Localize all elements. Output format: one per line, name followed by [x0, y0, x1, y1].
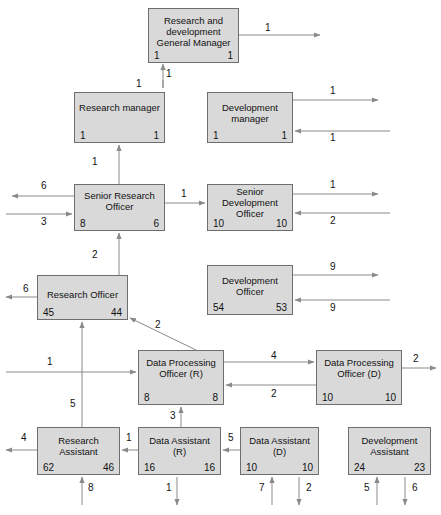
edge-label-sro-to-sdo: 1: [181, 188, 187, 199]
edge-label-dm-in: 1: [330, 132, 336, 143]
edge-label-sro-up: 1: [92, 156, 98, 167]
node-development-officer[interactable]: Development Officer 54 53: [207, 265, 293, 315]
edge-label-dpor-diag: 2: [155, 319, 161, 330]
node-right-count: 10: [385, 392, 396, 403]
node-left-count: 24: [354, 462, 365, 473]
edge-label-dpod-out: 2: [413, 353, 419, 364]
edge-label-do-in-right: 9: [330, 302, 336, 313]
edge-label-da-in-bottom: 5: [364, 482, 370, 493]
edge-label-dpor-up: 3: [170, 410, 176, 421]
edge-label-dm-out: 1: [330, 85, 336, 96]
edge-label-rm-up: 1: [136, 78, 142, 89]
node-left-count: 10: [246, 462, 257, 473]
edge-label-dpor-to-dpod: 4: [271, 350, 277, 361]
node-title: Data Assistant (D): [244, 435, 315, 457]
node-left-count: 10: [213, 218, 224, 229]
node-right-count: 8: [212, 392, 218, 403]
org-flow-diagram: Research and development General Manager…: [0, 0, 441, 515]
edge-label-gm-in-bottom: 1: [166, 68, 172, 79]
node-research-assistant[interactable]: Research Assistant 62 46: [37, 427, 120, 475]
node-left-count: 16: [144, 462, 155, 473]
edge-label-ra-out-left: 4: [21, 432, 27, 443]
edge-label-dar-out-bottom: 1: [166, 482, 172, 493]
node-title: Research Officer: [41, 289, 124, 300]
edge-label-dpor-in-left: 1: [47, 356, 53, 367]
node-title: Research and development General Manager: [152, 15, 235, 48]
node-title: Research manager: [78, 102, 161, 113]
node-right-count: 1: [153, 130, 159, 141]
node-title: Data Assistant (R): [142, 435, 217, 457]
edge-label-sdo-out-right: 1: [330, 179, 336, 190]
node-research-manager[interactable]: Research manager 1 1: [74, 92, 165, 143]
node-research-officer[interactable]: Research Officer 45 44: [37, 275, 128, 320]
node-right-count: 46: [103, 462, 114, 473]
edge-label-da-out-bottom: 6: [412, 482, 418, 493]
node-left-count: 45: [43, 307, 54, 318]
node-gm[interactable]: Research and development General Manager…: [148, 8, 239, 63]
node-left-count: 8: [80, 218, 86, 229]
node-senior-research-officer[interactable]: Senior Research Officer 8 6: [74, 184, 165, 231]
edge-label-ro-out-left: 6: [23, 283, 29, 294]
edge-label-sro-in-left: 3: [41, 216, 47, 227]
node-left-count: 10: [322, 392, 333, 403]
node-right-count: 10: [276, 218, 287, 229]
edge-label-dar-to-ra: 1: [126, 432, 132, 443]
node-title: Development Assistant: [352, 435, 427, 457]
edge-label-dad-in-bottom: 7: [259, 482, 265, 493]
node-right-count: 53: [276, 302, 287, 313]
node-left-count: 1: [213, 130, 219, 141]
node-title: Development manager: [211, 102, 289, 124]
edge-label-gm-out: 1: [265, 22, 271, 33]
edge-label-sro-out-left: 6: [41, 180, 47, 191]
node-right-count: 23: [414, 462, 425, 473]
node-right-count: 6: [153, 218, 159, 229]
node-data-processing-officer-r[interactable]: Data Processing Officer (R) 8 8: [138, 350, 224, 405]
node-title: Data Processing Officer (D): [320, 357, 398, 379]
edge-label-dad-to-dar: 5: [228, 432, 234, 443]
node-right-count: 1: [281, 130, 287, 141]
node-left-count: 1: [154, 50, 160, 61]
node-right-count: 1: [227, 50, 233, 61]
node-senior-development-officer[interactable]: Senior Development Officer 10 10: [207, 184, 293, 231]
node-title: Senior Development Officer: [211, 186, 289, 219]
edge-label-dad-out-bottom: 2: [306, 482, 312, 493]
node-development-assistant[interactable]: Development Assistant 24 23: [348, 427, 431, 475]
node-data-assistant-r[interactable]: Data Assistant (R) 16 16: [138, 427, 221, 475]
node-left-count: 1: [80, 130, 86, 141]
node-right-count: 10: [302, 462, 313, 473]
node-data-processing-officer-d[interactable]: Data Processing Officer (D) 10 10: [316, 350, 402, 405]
node-title: Development Officer: [211, 275, 289, 297]
edge-label-ra-in-bottom: 8: [88, 482, 94, 493]
node-title: Research Assistant: [41, 435, 116, 457]
node-data-assistant-d[interactable]: Data Assistant (D) 10 10: [240, 427, 319, 475]
edge-label-do-out-right: 9: [330, 261, 336, 272]
edge-label-sdo-in-right: 2: [330, 215, 336, 226]
node-left-count: 8: [144, 392, 150, 403]
edge-label-ra-up: 5: [70, 398, 76, 409]
node-right-count: 16: [204, 462, 215, 473]
node-right-count: 44: [111, 307, 122, 318]
node-left-count: 54: [213, 302, 224, 313]
edge-label-dpod-to-dpor: 2: [271, 388, 277, 399]
node-development-manager[interactable]: Development manager 1 1: [207, 92, 293, 143]
node-title: Data Processing Officer (R): [142, 357, 220, 379]
node-title: Senior Research Officer: [78, 190, 161, 212]
node-left-count: 62: [43, 462, 54, 473]
edge-label-ro-up: 2: [92, 249, 98, 260]
